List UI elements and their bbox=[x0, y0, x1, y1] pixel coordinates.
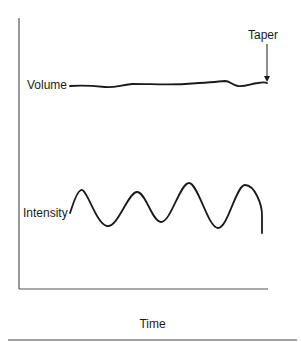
volume-label: Volume bbox=[27, 78, 67, 92]
chart-svg bbox=[0, 0, 301, 342]
intensity-line bbox=[70, 183, 262, 233]
intensity-label: Intensity bbox=[23, 206, 68, 220]
volume-line bbox=[70, 81, 267, 87]
taper-arrow-icon bbox=[264, 44, 270, 82]
taper-annotation: Taper bbox=[248, 28, 278, 42]
periodization-diagram: Volume Intensity Taper Time bbox=[0, 0, 301, 342]
x-axis-label: Time bbox=[0, 317, 301, 331]
